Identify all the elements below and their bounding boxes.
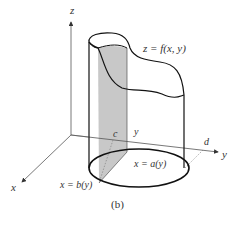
cross-section-slice	[98, 46, 127, 183]
surface-label: z = f(x, y)	[142, 42, 186, 55]
z-axis-label: z	[69, 4, 75, 16]
d-label: d	[204, 136, 210, 147]
origin-guide	[71, 135, 88, 137]
diagram-canvas: z x y z = f(x, y) c y d x = a(y) x = b(y…	[0, 0, 237, 227]
left-boundary-label: x = b(y)	[59, 179, 93, 191]
x-axis	[22, 135, 71, 182]
y-slice-label: y	[133, 126, 139, 137]
right-boundary-label: x = a(y)	[133, 158, 167, 170]
x-axis-label: x	[10, 181, 16, 193]
figure-caption: (b)	[111, 198, 124, 211]
c-label: c	[113, 128, 118, 139]
y-axis-label: y	[221, 148, 227, 160]
